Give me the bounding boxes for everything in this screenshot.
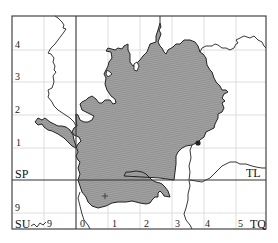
left-axis-label: 9 <box>15 203 20 213</box>
distribution-map <box>0 0 278 243</box>
grid-square-label-su: SU <box>15 218 30 230</box>
bottom-axis-label: 2 <box>144 219 149 229</box>
point-marker <box>195 140 200 145</box>
grid-square-label-tl: TL <box>246 167 261 179</box>
bottom-axis-label: 0 <box>80 219 85 229</box>
grid-square-label-sp: SP <box>15 168 28 180</box>
left-axis-label: 2 <box>15 105 20 115</box>
bottom-axis-label: 1 <box>112 219 117 229</box>
bottom-axis-label: 9 <box>47 219 52 229</box>
left-axis-label: 1 <box>16 138 21 148</box>
left-axis-label: 4 <box>15 40 20 50</box>
left-axis-label: 3 <box>15 72 20 82</box>
grid-square-label-tq: TQ <box>250 218 266 230</box>
bottom-axis-label: 3 <box>175 219 180 229</box>
bottom-axis-label: 4 <box>205 219 210 229</box>
bottom-axis-label: 5 <box>238 219 243 229</box>
